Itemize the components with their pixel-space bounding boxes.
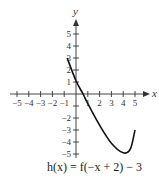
y-tick-label: −2 (61, 113, 71, 123)
x-tick-label: −5 (12, 98, 22, 108)
y-axis-label: y (72, 5, 78, 17)
x-tick-label: −3 (36, 98, 46, 108)
y-tick-label: 1 (67, 77, 72, 87)
y-tick-label: −5 (61, 149, 71, 159)
x-tick-label: −2 (48, 98, 58, 108)
y-tick-label: 4 (67, 41, 72, 51)
y-tick-label: −3 (61, 125, 71, 135)
function-caption: h(x) = f(−x + 2) − 3 (0, 160, 159, 175)
y-tick-label: −4 (61, 137, 71, 147)
y-axis-arrow-icon (73, 19, 79, 26)
x-tick-label: 4 (121, 98, 126, 108)
x-axis-label: x (151, 87, 157, 99)
x-tick-label: −1 (59, 98, 69, 108)
x-tick-label: 5 (133, 98, 138, 108)
graph: −5−4−3−2−112345 −5−4−3−212345 x y (0, 0, 159, 177)
x-tick-label: 2 (97, 98, 102, 108)
x-tick-label: −4 (24, 98, 34, 108)
x-axis-arrow-icon (143, 91, 150, 97)
x-tick-label: 3 (109, 98, 114, 108)
y-tick-label: 5 (67, 29, 72, 39)
